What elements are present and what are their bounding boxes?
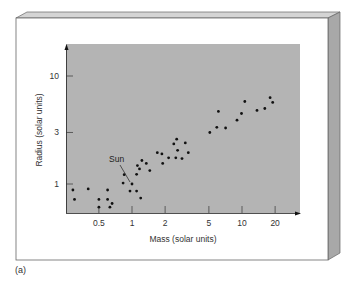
y-tick-label: 3 (54, 127, 59, 137)
data-point (172, 143, 175, 146)
panel-label: (a) (15, 265, 26, 275)
x-tick-label: 20 (270, 218, 280, 228)
data-point (243, 100, 246, 103)
data-point (72, 189, 75, 192)
data-point (161, 162, 164, 165)
y-axis-title: Radius (solar units) (34, 93, 44, 166)
data-point (87, 188, 90, 191)
data-point (111, 202, 114, 205)
data-point (138, 168, 141, 171)
data-point (181, 157, 184, 160)
data-point (271, 101, 274, 104)
data-point (139, 197, 142, 200)
data-point (215, 126, 218, 129)
data-point (269, 96, 272, 99)
x-axis-title: Mass (solar units) (149, 234, 216, 244)
x-tick-label: 1 (130, 218, 135, 228)
data-point (141, 159, 144, 162)
data-point (73, 198, 76, 201)
x-tick-label: 0.5 (93, 218, 105, 228)
y-tick-label: 1 (54, 179, 59, 189)
y-tick-label: 10 (50, 71, 60, 81)
data-point (217, 110, 220, 113)
data-point (106, 198, 109, 201)
data-point (109, 206, 112, 209)
data-point (263, 107, 266, 110)
scatter-chart: 0.512510201310 Mass (solar units) Radius… (0, 0, 347, 283)
data-point (167, 156, 170, 159)
data-point (161, 153, 164, 156)
data-point (184, 142, 187, 145)
x-tick-label: 10 (237, 218, 247, 228)
frame-right-bevel (328, 12, 340, 260)
data-point (148, 169, 151, 172)
data-point (136, 164, 139, 167)
x-tick-label: 2 (163, 218, 168, 228)
data-point (98, 206, 101, 209)
data-point (236, 119, 239, 122)
data-point (176, 149, 179, 152)
data-point (175, 138, 178, 141)
data-point (224, 127, 227, 130)
data-point (98, 198, 101, 201)
data-point (131, 183, 134, 186)
data-point (156, 151, 159, 154)
data-point (174, 156, 177, 159)
data-point (145, 162, 148, 165)
data-point (122, 182, 125, 185)
data-point (208, 131, 211, 134)
x-tick-label: 5 (207, 218, 212, 228)
data-point (135, 190, 138, 193)
data-point (256, 109, 259, 112)
data-point (240, 112, 243, 115)
sun-label: Sun (109, 154, 124, 164)
data-point (135, 173, 138, 176)
plot-area (66, 44, 300, 213)
frame-top-bevel (16, 12, 340, 18)
data-point (129, 190, 132, 193)
data-point (106, 189, 109, 192)
data-point (187, 151, 190, 154)
